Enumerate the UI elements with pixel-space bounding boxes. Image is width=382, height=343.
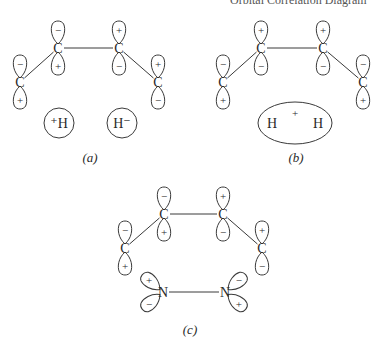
atom-c: +−C [316,21,329,75]
minus-sign: − [220,226,226,238]
minus-sign: − [155,94,161,106]
atom-c: −+C [51,21,64,75]
hydrogen-group: H+H [258,102,332,144]
atom-label: C [318,41,327,56]
atom-c: +−C [112,21,125,75]
panel-caption-b: (b) [288,150,303,165]
bond-line [24,52,53,78]
atom-label: C [218,207,227,222]
minus-sign: − [161,190,167,202]
atom-c: −+C [216,55,229,109]
atom-n: −+N [220,270,250,315]
minus-sign: − [236,274,242,286]
hydrogen-label: H [313,116,323,131]
plus-sign: + [161,226,167,238]
plus-sign: + [292,107,298,119]
minus-sign: − [360,58,366,70]
panel-caption-a: (a) [82,150,97,165]
plus-sign: + [258,24,264,36]
plus-sign: + [360,94,366,106]
bond-line [227,52,256,78]
atom-label: C [358,75,367,90]
plus-sign: + [220,190,226,202]
plus-sign: + [220,94,226,106]
atom-label: C [159,207,168,222]
atom-label: C [218,75,227,90]
bond-line [124,52,154,78]
minus-sign: − [258,60,264,72]
plus-sign: + [155,58,161,70]
atom-label: C [15,75,24,90]
bond-line [228,218,258,244]
panel-a: −+C−+C+−C+−C⁺HH⁻(a) [13,21,164,165]
minus-sign: − [55,24,61,36]
atom-label: C [53,41,62,56]
atom-label: C [256,41,265,56]
plus-sign: + [55,60,61,72]
bond-line [328,52,359,78]
plus-sign: + [122,260,128,272]
panel-b: −+C+−C+−C−+CH+H(b) [216,21,369,165]
atom-c: −+C [356,55,369,109]
atom-n: +−N [138,270,168,315]
atom-c: −+C [13,55,26,109]
orbital-diagram-canvas: Orbital Correlation Diagram −+C−+C+−C+−C… [0,0,382,343]
atom-c: +−C [254,21,267,75]
plus-sign: + [259,224,265,236]
atom-label: C [120,241,129,256]
atom-c: +−C [216,187,229,241]
atom-c: −+C [157,187,170,241]
atom-c: +−C [255,221,268,275]
hydrogen-label: H [267,116,277,131]
minus-sign: − [122,224,128,236]
orbital-diagram: Orbital Correlation Diagram −+C−+C+−C+−C… [0,0,382,343]
atom-label: N [220,285,230,300]
hydrogen-group: ⁺HH⁻ [44,108,137,138]
minus-sign: − [320,60,326,72]
panel-caption-c: (c) [183,322,197,337]
atom-label: C [257,241,266,256]
minus-sign: − [259,260,265,272]
header-cutoff-text: Orbital Correlation Diagram [230,0,367,7]
atom-label: N [158,285,168,300]
hydrogen-label: H⁻ [113,116,131,131]
minus-sign: − [220,58,226,70]
atom-c: −+C [118,221,131,275]
minus-sign: − [116,60,122,72]
plus-sign: + [320,24,326,36]
atom-label: C [114,41,123,56]
minus-sign: − [146,298,152,310]
panel-c: −+C−+C+−C+−C+−N−+N(c) [118,187,268,337]
atom-c: +−C [151,55,164,109]
hydrogen-label: ⁺H [50,116,68,131]
plus-sign: + [17,94,23,106]
atom-label: C [153,75,162,90]
plus-sign: + [116,24,122,36]
plus-sign: + [146,274,152,286]
plus-sign: + [236,298,242,310]
bond-line [130,218,160,244]
minus-sign: − [17,58,23,70]
